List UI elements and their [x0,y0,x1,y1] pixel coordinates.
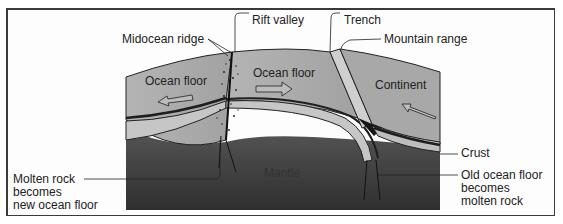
rift-valley-label: Rift valley [252,14,304,27]
trench-label: Trench [344,14,381,27]
continent-label: Continent [375,79,426,92]
molten-rock-label: Molten rock becomes new ocean floor [13,173,98,212]
midocean-ridge-label: Midocean ridge [122,33,204,46]
mantle-label: Mantle [264,167,300,180]
old-ocean-floor-label: Old ocean floor becomes molten rock [461,169,542,208]
crust-label: Crust [461,147,490,160]
mountain-range-label: Mountain range [384,33,467,46]
ocean-floor-left-label: Ocean floor [145,75,207,88]
molten-rock-line-3: new ocean floor [13,199,98,212]
old-ocean-floor-line-3: molten rock [461,195,542,208]
ocean-floor-right-label: Ocean floor [253,67,315,80]
